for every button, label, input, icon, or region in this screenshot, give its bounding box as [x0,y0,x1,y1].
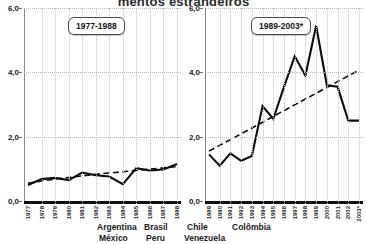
y-axis-labels-right: 0,02,04,06,0 [181,8,203,204]
x-axis-tick-label: 1988 [174,206,180,219]
y-axis-tick-mark [18,72,22,73]
legend-colombia: Colômbia [232,222,271,232]
x-axis-tick-label: 1977 [25,206,31,219]
gridline-vertical [316,8,317,204]
gridline-vertical [359,8,360,204]
x-axis-tick-label: 1983 [106,206,112,219]
gridline-vertical [327,8,328,204]
legend-argentina: Argentina [97,222,137,232]
gridline-vertical [295,8,296,204]
gridline-vertical [69,8,70,204]
x-axis-tick-label: 1998 [302,206,308,219]
y-axis-tick-mark [199,137,203,138]
x-axis-tick-label: 2000 [324,206,330,219]
y-axis-tick-mark [199,72,203,73]
gridline-vertical [230,8,231,204]
series-lines-left [24,8,181,204]
gridline-horizontal [24,8,181,9]
x-axis-tick-label: 1980 [66,206,72,219]
x-axis-tick-label: 1996 [281,206,287,219]
x-axis-tick-label: 1984 [120,206,126,219]
panel-tag-left: 1977-1988 [68,17,125,35]
y-axis-tick-mark [199,8,203,9]
x-axis-tick-label: 1992 [238,206,244,219]
panel-1977-1988: 0,02,04,06,0 197719781979198019811982198… [24,8,181,204]
gridline-vertical [163,8,164,204]
x-axis-tick-label: 1979 [52,206,58,219]
gridline-vertical [136,8,137,204]
gridline-horizontal [24,72,181,73]
plot-area-right: 0,02,04,06,0 [205,8,363,204]
x-axis-tick-label: 1993 [249,206,255,219]
gridline-vertical [109,8,110,204]
x-axis-tick-label: 2001 [335,206,341,219]
x-axis-tick-label: 1981 [79,206,85,219]
y-axis-tick-mark [18,201,22,202]
gridline-vertical [338,8,339,204]
x-axis-tick-label: 1989 [206,206,212,219]
gridline-vertical [252,8,253,204]
x-axis-tick-label: 1987 [160,206,166,219]
gridline-vertical [220,8,221,204]
panel-tag-right: 1989-2003* [251,17,311,35]
gridline-vertical [123,8,124,204]
x-axis-tick-label: 1995 [270,206,276,219]
y-axis-tick-mark [18,8,22,9]
gridline-vertical [55,8,56,204]
gridline-vertical [305,8,306,204]
legend-brasil: Brasil [144,222,168,232]
x-axis-tick-label: 1982 [93,206,99,219]
gridline-vertical [82,8,83,204]
data-line [28,164,177,185]
gridline-vertical [273,8,274,204]
x-axis-tick-label: 1997 [292,206,298,219]
gridline-vertical [348,8,349,204]
gridline-vertical [241,8,242,204]
panel-1989-2003: 0,02,04,06,0 198919901991199219931994199… [205,8,363,204]
legend-mexico: México [99,233,128,243]
gridline-vertical [177,8,178,204]
chart-figure: mentos estrangeiros 0,02,04,06,0 1977197… [0,0,367,244]
legend-peru: Peru [146,233,165,243]
y-axis-labels-left: 0,02,04,06,0 [0,8,22,204]
x-axis-tick-label: 1985 [133,206,139,219]
gridline-vertical [284,8,285,204]
gridline-vertical [263,8,264,204]
legend-venezuela: Venezuela [184,233,225,243]
legend-chile: Chile [187,222,208,232]
legend: Argentina Brasil Chile Colômbia México P… [0,222,367,244]
x-axis-tick-label: 1986 [147,206,153,219]
x-axis-tick-label: 2002 [345,206,351,219]
gridline-vertical [150,8,151,204]
y-axis-tick-mark [18,137,22,138]
y-axis-tick-mark [199,201,203,202]
x-axis-tick-label: 2003* [356,206,362,222]
x-axis-tick-label: 1994 [260,206,266,219]
gridline-horizontal [24,137,181,138]
x-axis-tick-label: 1991 [227,206,233,219]
gridline-vertical [42,8,43,204]
figure-title: mentos estrangeiros [0,0,367,6]
x-axis-tick-label: 1990 [217,206,223,219]
plot-area-left: 0,02,04,06,0 [24,8,181,204]
x-axis-tick-label: 1999 [313,206,319,219]
gridline-vertical [96,8,97,204]
x-axis-tick-label: 1978 [39,206,45,219]
